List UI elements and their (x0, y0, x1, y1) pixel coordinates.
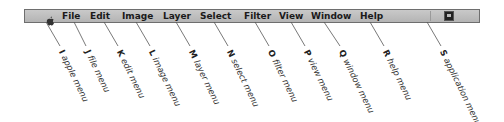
leader-help (370, 22, 384, 46)
leader-edit (104, 22, 118, 46)
leader-window (324, 22, 340, 46)
leader-view (291, 22, 305, 46)
leader-layer (176, 22, 190, 46)
leader-select (214, 22, 228, 46)
leader-filter (255, 22, 269, 46)
leader-file (74, 22, 86, 46)
leader-apple (46, 22, 60, 46)
leader-image (136, 22, 150, 46)
leader-application (427, 22, 441, 46)
